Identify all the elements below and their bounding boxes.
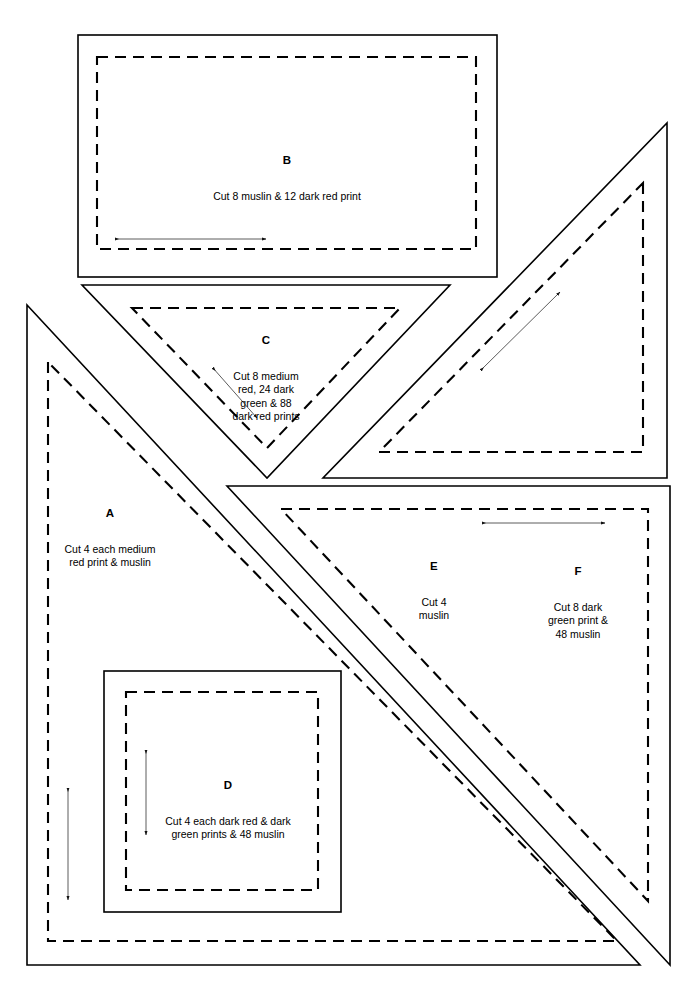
piece-B-seam-line bbox=[97, 57, 476, 249]
piece-B-cut-line bbox=[78, 35, 497, 277]
pattern-drawing bbox=[0, 0, 685, 982]
piece-D-shape bbox=[104, 671, 341, 912]
piece-A-shape bbox=[27, 305, 640, 965]
piece-F-cut-line bbox=[323, 123, 667, 478]
piece-F-shape bbox=[323, 123, 667, 478]
piece-C-shape bbox=[82, 285, 450, 478]
piece-E-seam-line bbox=[281, 509, 648, 901]
piece-D-seam-line bbox=[126, 692, 318, 890]
piece-A-cut-line bbox=[27, 305, 640, 965]
piece-C-grain-arrow bbox=[213, 368, 257, 418]
piece-E-shape bbox=[227, 486, 670, 965]
pattern-sheet: B Cut 8 muslin & 12 dark red print C Cut… bbox=[0, 0, 685, 982]
piece-B-shape bbox=[78, 35, 497, 277]
piece-E-cut-line bbox=[227, 486, 670, 965]
piece-D-cut-line bbox=[104, 671, 341, 912]
piece-A-seam-line bbox=[48, 362, 617, 941]
